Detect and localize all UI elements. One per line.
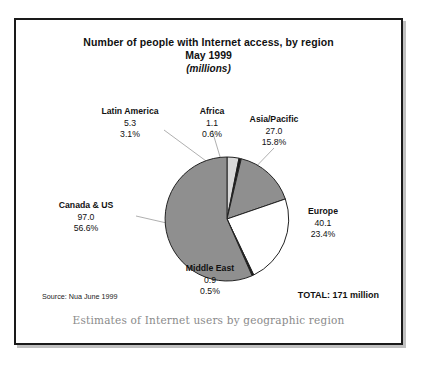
total-note: TOTAL: 171 million bbox=[298, 290, 379, 300]
slice-label-europe-name: Europe bbox=[284, 206, 362, 218]
slice-label-latin-america-value: 5.3 bbox=[84, 118, 176, 130]
figure-frame: Number of people with Internet access, b… bbox=[14, 18, 403, 345]
slice-label-latin-america: Latin America 5.3 3.1% bbox=[84, 106, 176, 141]
slice-label-canada-us-value: 97.0 bbox=[38, 212, 134, 224]
slice-label-europe: Europe 40.1 23.4% bbox=[284, 206, 362, 241]
slice-label-latin-america-percent: 3.1% bbox=[84, 129, 176, 141]
figure-caption: Estimates of Internet users by geographi… bbox=[16, 314, 401, 326]
slice-label-canada-us-name: Canada & US bbox=[38, 200, 134, 212]
source-note: Source: Nua June 1999 bbox=[42, 292, 118, 301]
slice-label-canada-us: Canada & US 97.0 56.6% bbox=[38, 200, 134, 235]
slice-label-middle-east-value: 0.9 bbox=[162, 275, 258, 287]
slice-label-asia-pacific-name: Asia/Pacific bbox=[232, 114, 316, 126]
slice-label-latin-america-name: Latin America bbox=[84, 106, 176, 118]
slice-label-middle-east-percent: 0.5% bbox=[162, 286, 258, 298]
slice-label-canada-us-percent: 56.6% bbox=[38, 223, 134, 235]
slice-label-asia-pacific-value: 27.0 bbox=[232, 126, 316, 138]
slice-label-middle-east: Middle East 0.9 0.5% bbox=[162, 263, 258, 298]
slice-label-europe-value: 40.1 bbox=[284, 218, 362, 230]
slice-label-europe-percent: 23.4% bbox=[284, 229, 362, 241]
slice-label-asia-pacific-percent: 15.8% bbox=[232, 137, 316, 149]
slice-label-middle-east-name: Middle East bbox=[162, 263, 258, 275]
slice-label-asia-pacific: Asia/Pacific 27.0 15.8% bbox=[232, 114, 316, 149]
